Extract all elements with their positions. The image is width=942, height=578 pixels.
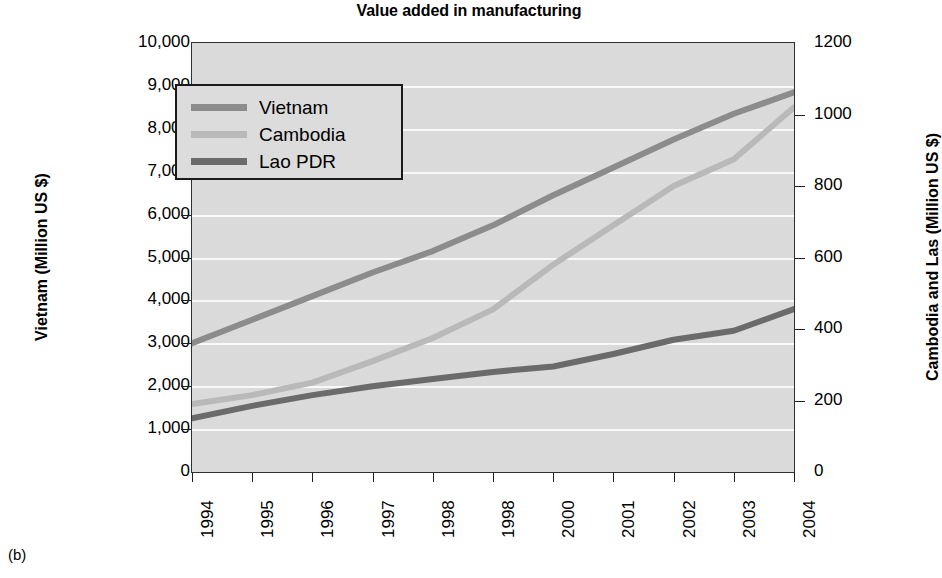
chart-title: Value added in manufacturing — [0, 2, 938, 20]
x-tick-label: 1994 — [198, 500, 218, 538]
x-tick-label: 1996 — [318, 500, 338, 538]
left-tick-mark — [181, 300, 191, 301]
series-line-lao-pdr — [192, 309, 794, 418]
left-tick-label: 5,000 — [70, 247, 190, 267]
legend-swatch-cambodia — [191, 131, 247, 138]
legend-swatch-vietnam — [191, 104, 247, 111]
right-tick-label: 200 — [814, 390, 904, 410]
x-tick-mark — [734, 473, 735, 482]
left-tick-label: 0 — [70, 461, 190, 481]
legend-label-lao-pdr: Lao PDR — [259, 152, 336, 171]
left-tick-mark — [181, 386, 191, 387]
x-tick-mark — [674, 473, 675, 482]
left-tick-label: 2,000 — [70, 375, 190, 395]
right-tick-label: 800 — [814, 175, 904, 195]
x-tick-label: 2003 — [740, 500, 760, 538]
x-tick-label: 1995 — [258, 500, 278, 538]
x-tick-label: 2000 — [559, 500, 579, 538]
left-tick-label: 6,000 — [70, 204, 190, 224]
left-tick-mark — [181, 258, 191, 259]
right-tick-mark — [795, 329, 805, 330]
x-tick-label: 1998 — [439, 500, 459, 538]
x-tick-label: 2002 — [680, 500, 700, 538]
legend-label-vietnam: Vietnam — [259, 98, 328, 117]
left-tick-label: 10,000 — [70, 32, 190, 52]
left-tick-mark — [181, 343, 191, 344]
x-tick-mark — [192, 473, 193, 482]
right-tick-label: 1000 — [814, 104, 904, 124]
x-tick-mark — [312, 473, 313, 482]
right-tick-label: 1200 — [814, 32, 904, 52]
legend-item-lao-pdr: Lao PDR — [191, 148, 401, 175]
left-tick-label: 3,000 — [70, 332, 190, 352]
left-tick-mark — [181, 429, 191, 430]
x-tick-mark — [493, 473, 494, 482]
figure-caption: (b) — [8, 546, 26, 563]
legend-item-cambodia: Cambodia — [191, 121, 401, 148]
legend-label-cambodia: Cambodia — [259, 125, 346, 144]
left-tick-label: 4,000 — [70, 289, 190, 309]
right-axis-title: Cambodia and Las (Million US $) — [924, 47, 942, 467]
right-tick-label: 600 — [814, 247, 904, 267]
x-tick-mark — [373, 473, 374, 482]
right-tick-mark — [795, 186, 805, 187]
left-axis-title: Vietnam (Million US $) — [33, 107, 51, 407]
right-tick-mark — [795, 401, 805, 402]
x-tick-label: 2001 — [619, 500, 639, 538]
left-tick-label: 7,000 — [70, 161, 190, 181]
legend-swatch-lao-pdr — [191, 158, 247, 165]
x-tick-mark — [613, 473, 614, 482]
legend: Vietnam Cambodia Lao PDR — [175, 84, 403, 180]
x-tick-mark — [433, 473, 434, 482]
left-tick-mark — [181, 215, 191, 216]
left-tick-label: 9,000 — [70, 75, 190, 95]
left-tick-label: 1,000 — [70, 418, 190, 438]
right-tick-label: 400 — [814, 318, 904, 338]
x-tick-label: 1998 — [499, 500, 519, 538]
right-tick-mark — [795, 115, 805, 116]
left-tick-label: 8,000 — [70, 118, 190, 138]
x-tick-mark — [252, 473, 253, 482]
legend-item-vietnam: Vietnam — [191, 94, 401, 121]
right-tick-label: 0 — [814, 461, 904, 481]
right-tick-mark — [795, 258, 805, 259]
x-tick-label: 1997 — [379, 500, 399, 538]
x-tick-mark — [553, 473, 554, 482]
x-tick-mark — [794, 473, 795, 482]
x-tick-label: 2004 — [800, 500, 820, 538]
